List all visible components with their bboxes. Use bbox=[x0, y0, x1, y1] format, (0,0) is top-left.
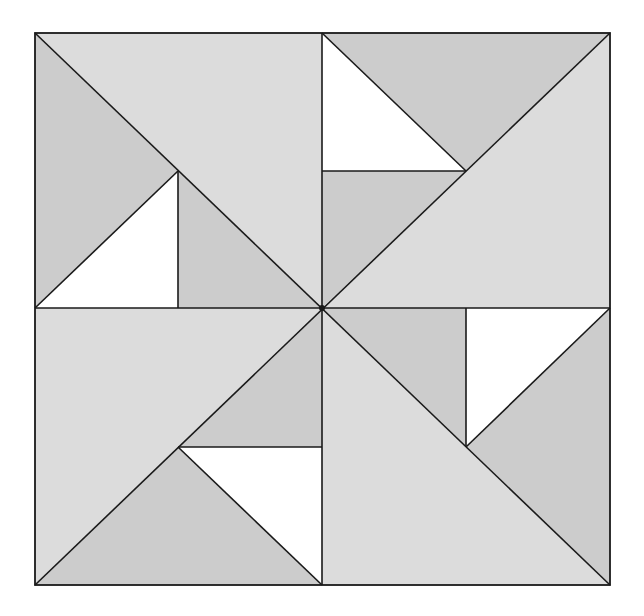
pinwheel-quilt-diagram bbox=[0, 0, 644, 616]
diagram-canvas bbox=[0, 0, 644, 616]
center-point bbox=[319, 305, 325, 311]
